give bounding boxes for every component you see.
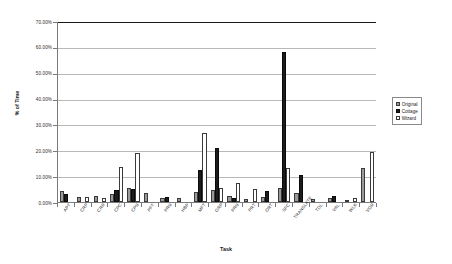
x-label-cell: CPN bbox=[124, 205, 141, 241]
bar-wizard bbox=[236, 183, 240, 202]
bar-cottage bbox=[265, 191, 269, 202]
x-label-cell: ORT bbox=[259, 205, 276, 241]
bar-wizard bbox=[253, 189, 257, 202]
bar-group bbox=[58, 22, 75, 202]
bar-group bbox=[259, 22, 276, 202]
bar-group bbox=[242, 22, 259, 202]
bar-cottage bbox=[299, 175, 303, 202]
legend-item-cottage: Cottage bbox=[396, 108, 418, 115]
bar-original bbox=[177, 198, 181, 202]
x-tick-label: PFT bbox=[147, 203, 156, 213]
x-axis-title: Task bbox=[0, 246, 452, 252]
legend-label: Original bbox=[402, 102, 418, 107]
bar-group bbox=[326, 22, 343, 202]
x-label-cell: TDL bbox=[309, 205, 326, 241]
y-tick-label: 70.00% bbox=[36, 20, 52, 25]
x-label-cell: PRN bbox=[225, 205, 242, 241]
bar-group bbox=[225, 22, 242, 202]
x-label-cell: PFT bbox=[141, 205, 158, 241]
bar-wizard bbox=[370, 152, 374, 202]
x-label-cell: PRN bbox=[158, 205, 175, 241]
x-label-cell: APT bbox=[57, 205, 74, 241]
x-label-cell: SFC bbox=[275, 205, 292, 241]
bar-wizard bbox=[135, 153, 139, 202]
x-label-cell: ORP bbox=[208, 205, 225, 241]
bar-group bbox=[108, 22, 125, 202]
bar-groups bbox=[58, 22, 376, 202]
y-tick-label: 30.00% bbox=[36, 123, 52, 128]
bar-wizard bbox=[202, 133, 206, 202]
y-tick-label: 50.00% bbox=[36, 71, 52, 76]
y-tick-label: 0.00% bbox=[38, 201, 52, 206]
bar-original bbox=[345, 200, 349, 202]
x-axis-labels: APTCRPCRRCPCCPNPFTPRNHBPMFTORPPRNPRTORTS… bbox=[57, 205, 376, 241]
legend-label: Cottage bbox=[402, 109, 418, 114]
x-label-cell: WLK bbox=[343, 205, 360, 241]
legend-swatch-wizard bbox=[396, 116, 400, 120]
bar-group bbox=[142, 22, 159, 202]
bar-group bbox=[342, 22, 359, 202]
bar-cottage bbox=[332, 196, 336, 202]
bar-group bbox=[276, 22, 293, 202]
x-label-cell: MFT bbox=[191, 205, 208, 241]
bar-original bbox=[244, 199, 248, 202]
legend-swatch-cottage bbox=[396, 109, 400, 113]
legend-swatch-original bbox=[396, 102, 400, 106]
bar-group bbox=[192, 22, 209, 202]
bar-group bbox=[125, 22, 142, 202]
x-label-cell: PRT bbox=[242, 205, 259, 241]
bar-group bbox=[209, 22, 226, 202]
bar-group bbox=[309, 22, 326, 202]
y-tick-label: 10.00% bbox=[36, 175, 52, 180]
y-axis-title: % of Time bbox=[14, 73, 20, 133]
bar-group bbox=[359, 22, 376, 202]
chart-container: % of Time 0.00%10.00%20.00%30.00%40.00%5… bbox=[0, 0, 452, 264]
x-label-cell: CRR bbox=[91, 205, 108, 241]
y-tick-label: 60.00% bbox=[36, 45, 52, 50]
bar-original bbox=[77, 197, 81, 202]
x-label-cell: TRANSLATE bbox=[292, 205, 309, 241]
bar-wizard bbox=[102, 198, 106, 202]
y-tick-label: 40.00% bbox=[36, 97, 52, 102]
x-label-cell: VAL bbox=[326, 205, 343, 241]
bar-wizard bbox=[219, 188, 223, 202]
x-label-cell: CRP bbox=[74, 205, 91, 241]
x-tick-label: TDL bbox=[315, 203, 324, 213]
bar-wizard bbox=[286, 168, 290, 202]
bar-wizard bbox=[119, 167, 123, 202]
bar-group bbox=[292, 22, 309, 202]
x-label-cell: HBP bbox=[175, 205, 192, 241]
bar-cottage bbox=[64, 194, 68, 202]
bar-original bbox=[361, 168, 365, 202]
bar-group bbox=[175, 22, 192, 202]
x-tick-mark bbox=[376, 203, 377, 207]
x-label-cell: VOR bbox=[359, 205, 376, 241]
chart-legend: OriginalCottageWizard bbox=[392, 97, 422, 125]
bar-original bbox=[144, 193, 148, 202]
bar-original bbox=[94, 196, 98, 202]
x-tick-label: VAL bbox=[332, 203, 341, 213]
y-axis: % of Time 0.00%10.00%20.00%30.00%40.00%5… bbox=[0, 0, 57, 225]
legend-item-wizard: Wizard bbox=[396, 115, 418, 122]
y-tick-label: 20.00% bbox=[36, 149, 52, 154]
bar-group bbox=[91, 22, 108, 202]
bar-group bbox=[75, 22, 92, 202]
bar-group bbox=[158, 22, 175, 202]
bar-wizard bbox=[85, 197, 89, 202]
plot-area bbox=[57, 22, 376, 203]
x-label-cell: CPC bbox=[107, 205, 124, 241]
legend-item-original: Original bbox=[396, 101, 418, 108]
legend-label: Wizard bbox=[402, 116, 416, 121]
